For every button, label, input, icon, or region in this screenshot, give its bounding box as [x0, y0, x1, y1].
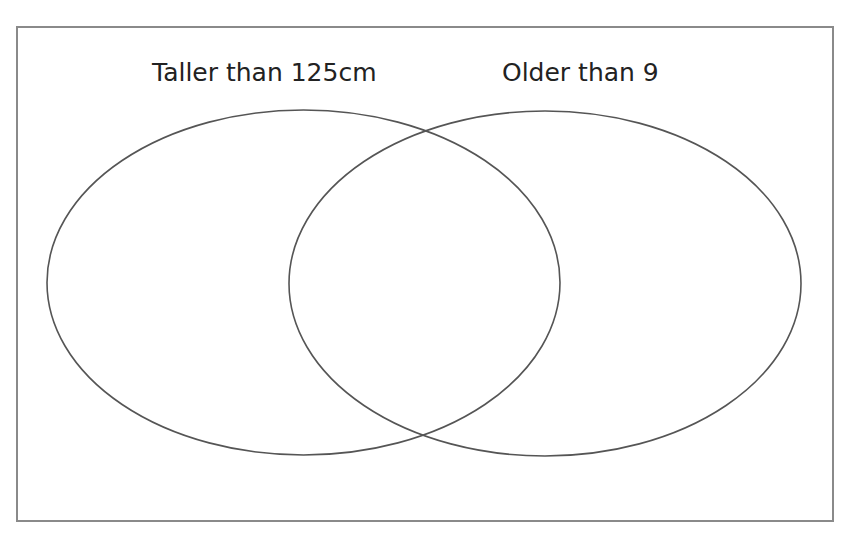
venn-diagram	[0, 0, 845, 535]
set-a-label: Taller than 125cm	[152, 60, 377, 85]
set-a-ellipse	[47, 110, 560, 455]
set-b-label: Older than 9	[502, 60, 659, 85]
set-b-ellipse	[289, 111, 801, 456]
